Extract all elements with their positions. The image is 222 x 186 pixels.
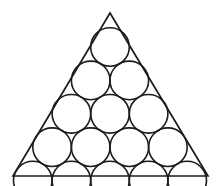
figure-canvas (0, 0, 222, 186)
packed-circle-r4-c3 (110, 128, 149, 167)
circles-in-triangle-diagram (0, 0, 222, 186)
packed-circle-r3-c2 (91, 95, 130, 134)
packed-circles-group (14, 28, 207, 186)
packed-circle-r1-c1 (91, 28, 130, 67)
packed-circle-r4-c4 (149, 128, 188, 167)
packed-circle-r4-c2 (71, 128, 110, 167)
